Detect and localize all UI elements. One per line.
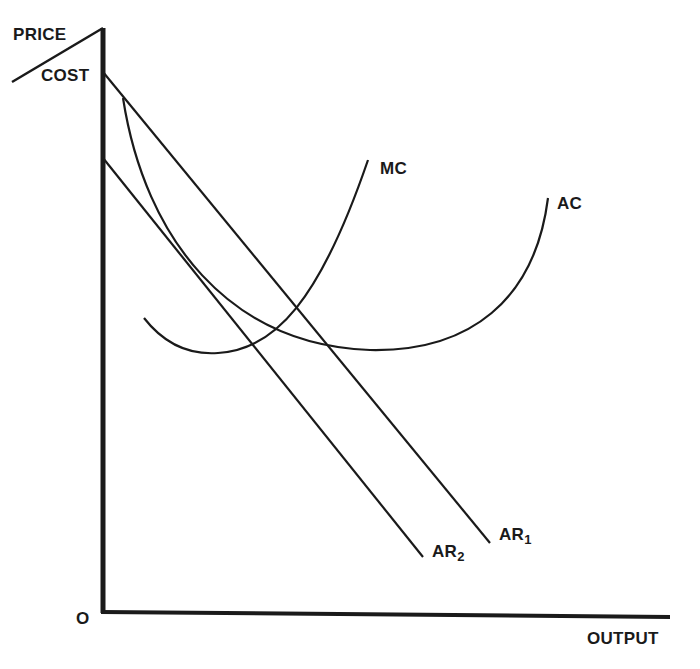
ar1-label-main: AR: [499, 525, 524, 544]
x-axis: [101, 612, 670, 617]
y-axis-label-price: PRICE: [13, 26, 66, 43]
ar1-label-sub: 1: [524, 532, 532, 547]
economics-chart: [0, 0, 700, 669]
ac-label: AC: [557, 195, 582, 212]
ar2-label-main: AR: [432, 542, 457, 561]
ar2-curve: [103, 158, 423, 557]
mc-label: MC: [380, 160, 407, 177]
ar1-label: AR1: [499, 526, 532, 546]
origin-label: O: [76, 610, 90, 627]
y-axis-label-cost: COST: [41, 67, 89, 84]
ar2-label: AR2: [432, 543, 465, 563]
x-axis-label-output: OUTPUT: [587, 630, 659, 647]
ar2-label-sub: 2: [457, 549, 465, 564]
ac-curve: [123, 98, 548, 350]
